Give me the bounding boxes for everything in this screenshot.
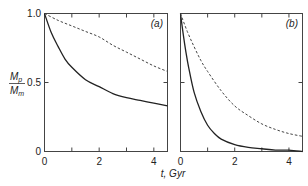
- y-label-numerator: Mp: [10, 71, 22, 84]
- panel-a-frame: [45, 14, 168, 152]
- y-tick-label-1.0: 1.0: [27, 8, 41, 19]
- x-tick-label: 2: [232, 156, 238, 167]
- x-axis-label: t, Gyr: [161, 168, 186, 179]
- x-tick-label: 0: [42, 156, 48, 167]
- y-tick-label-0.5: 0.5: [27, 77, 41, 88]
- x-tick-label: 4: [286, 156, 292, 167]
- panel-a-label: (a): [151, 18, 163, 29]
- x-tick-label: 4: [151, 156, 157, 167]
- chart: Mp Mm 1.0 0.5 0 0 2 4 (a) 0 2 4 (b) t, G…: [0, 0, 308, 186]
- y-tick-label-0: 0: [35, 146, 41, 157]
- panel-b-frame: [181, 14, 303, 152]
- panel-b: 0 2 4 (b): [178, 14, 303, 168]
- panel-b-label: (b): [286, 18, 298, 29]
- panel-a-x-tick-labels: 0 2 4: [42, 156, 157, 167]
- x-tick-label: 0: [178, 156, 184, 167]
- panel-b-dashed-series: [181, 14, 303, 137]
- y-axis-label: Mp Mm: [9, 71, 25, 97]
- x-tick-label: 2: [96, 156, 102, 167]
- panel-a-solid-series: [45, 14, 168, 106]
- y-label-denominator: Mm: [10, 85, 24, 97]
- panel-a-dashed-series: [45, 14, 168, 72]
- panel-a: 0 2 4 (a): [42, 14, 168, 168]
- panel-b-solid-series: [181, 14, 303, 152]
- x-axis-label-var: t, Gyr: [161, 168, 186, 179]
- panel-a-ticks: [45, 14, 168, 152]
- panel-b-x-tick-labels: 0 2 4: [178, 156, 292, 167]
- panel-b-ticks: [181, 14, 303, 152]
